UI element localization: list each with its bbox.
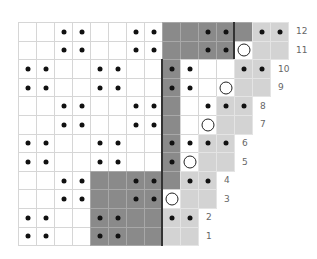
- dot-stitch-icon: [115, 85, 120, 90]
- chart-cell: [198, 96, 217, 116]
- chart-cell: [108, 115, 127, 135]
- dot-stitch-icon: [205, 29, 210, 34]
- dot-stitch-icon: [115, 141, 120, 146]
- chart-cell: [54, 152, 73, 172]
- chart-cell: [180, 115, 199, 135]
- dot-stitch-icon: [97, 159, 102, 164]
- chart-cell: [54, 78, 73, 98]
- chart-cell: [108, 96, 127, 116]
- boundary-line: [161, 115, 163, 135]
- chart-cell: [18, 189, 37, 209]
- dot-stitch-icon: [79, 197, 84, 202]
- dot-stitch-icon: [133, 178, 138, 183]
- chart-cell: [216, 59, 235, 79]
- chart-cell: [162, 171, 181, 191]
- chart-cell: [108, 227, 127, 247]
- chart-cell: [90, 41, 109, 61]
- dot-stitch-icon: [25, 159, 30, 164]
- row-number-label: 5: [242, 157, 248, 167]
- row-number-label: 4: [224, 175, 230, 185]
- dot-stitch-icon: [25, 141, 30, 146]
- boundary-line: [161, 227, 163, 247]
- chart-cell: [54, 96, 73, 116]
- stitch-chart: 121110987654321: [0, 0, 317, 259]
- dot-stitch-icon: [61, 197, 66, 202]
- dot-stitch-icon: [43, 234, 48, 239]
- yarn-over-circle-icon: [237, 44, 250, 57]
- chart-cell: [162, 152, 181, 172]
- chart-cell: [90, 152, 109, 172]
- chart-cell: [18, 22, 37, 42]
- chart-cell: [180, 189, 199, 209]
- row-number-label: 1: [206, 231, 212, 241]
- boundary-line: [233, 22, 235, 42]
- dot-stitch-icon: [133, 29, 138, 34]
- chart-cell: [54, 59, 73, 79]
- chart-cell: [54, 115, 73, 135]
- dot-stitch-icon: [133, 197, 138, 202]
- dot-stitch-icon: [115, 66, 120, 71]
- dot-stitch-icon: [25, 215, 30, 220]
- dot-stitch-icon: [151, 122, 156, 127]
- chart-cell: [36, 78, 55, 98]
- chart-cell: [234, 41, 253, 61]
- chart-cell: [72, 78, 91, 98]
- chart-cell: [270, 22, 289, 42]
- dot-stitch-icon: [169, 85, 174, 90]
- dot-stitch-icon: [25, 66, 30, 71]
- dot-stitch-icon: [151, 29, 156, 34]
- dot-stitch-icon: [115, 215, 120, 220]
- chart-cell: [72, 134, 91, 154]
- dot-stitch-icon: [169, 141, 174, 146]
- dot-stitch-icon: [97, 234, 102, 239]
- chart-cell: [18, 115, 37, 135]
- chart-cell: [144, 41, 163, 61]
- chart-cell: [180, 59, 199, 79]
- chart-cell: [54, 22, 73, 42]
- chart-cell: [198, 152, 217, 172]
- chart-cell: [198, 134, 217, 154]
- dot-stitch-icon: [187, 66, 192, 71]
- chart-cell: [162, 96, 181, 116]
- chart-cell: [72, 171, 91, 191]
- chart-cell: [180, 22, 199, 42]
- dot-stitch-icon: [43, 141, 48, 146]
- dot-stitch-icon: [241, 104, 246, 109]
- chart-cell: [126, 41, 145, 61]
- chart-cell: [126, 115, 145, 135]
- chart-cell: [126, 189, 145, 209]
- chart-cell: [252, 78, 271, 98]
- dot-stitch-icon: [61, 29, 66, 34]
- chart-cell: [108, 41, 127, 61]
- chart-cell: [126, 208, 145, 228]
- dot-stitch-icon: [223, 48, 228, 53]
- chart-cell: [126, 78, 145, 98]
- chart-cell: [36, 96, 55, 116]
- row-number-label: 11: [296, 45, 307, 55]
- chart-cell: [90, 134, 109, 154]
- chart-cell: [216, 78, 235, 98]
- dot-stitch-icon: [205, 48, 210, 53]
- yarn-over-circle-icon: [183, 155, 196, 168]
- boundary-line: [161, 59, 163, 79]
- chart-cell: [108, 22, 127, 42]
- dot-stitch-icon: [259, 66, 264, 71]
- chart-cell: [54, 134, 73, 154]
- dot-stitch-icon: [79, 104, 84, 109]
- boundary-line: [161, 189, 163, 209]
- chart-cell: [126, 134, 145, 154]
- dot-stitch-icon: [223, 29, 228, 34]
- chart-cell: [108, 59, 127, 79]
- chart-cell: [180, 152, 199, 172]
- dot-stitch-icon: [169, 215, 174, 220]
- boundary-line: [161, 96, 163, 116]
- chart-cell: [36, 227, 55, 247]
- chart-cell: [36, 41, 55, 61]
- chart-cell: [36, 189, 55, 209]
- chart-cell: [180, 41, 199, 61]
- boundary-line: [161, 208, 163, 228]
- chart-cell: [90, 171, 109, 191]
- dot-stitch-icon: [151, 197, 156, 202]
- chart-cell: [162, 189, 181, 209]
- chart-cell: [18, 59, 37, 79]
